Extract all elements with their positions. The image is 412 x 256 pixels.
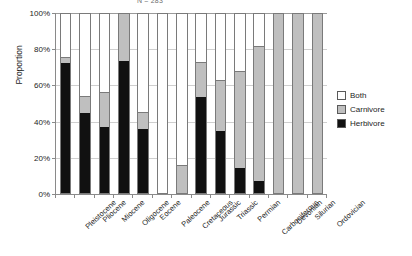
bar-segment-carnivore [235, 71, 245, 168]
bar-segment-carnivore [274, 14, 284, 193]
bar-slot [308, 13, 327, 194]
legend-item[interactable]: Herbivore [337, 117, 385, 129]
y-axis-title: Proportion [14, 10, 24, 120]
bar-segment-herbivore [254, 181, 264, 193]
bar-slot [250, 13, 269, 194]
bar-slot [75, 13, 94, 194]
bar-slot [153, 13, 172, 194]
bar-slot [269, 13, 288, 194]
bar-segment-carnivore [119, 14, 129, 61]
bar-group [56, 13, 327, 194]
stacked-bar[interactable] [99, 13, 111, 194]
bar-segment-carnivore [177, 165, 187, 193]
bar-segment-herbivore [196, 97, 206, 193]
stacked-bar[interactable] [195, 13, 207, 194]
legend-swatch-carnivore-icon [337, 105, 346, 114]
legend-swatch-both-icon [337, 91, 346, 100]
plot-area: 0%20%40%60%80%100% [55, 13, 327, 195]
y-axis-tick-label: 80% [34, 45, 50, 54]
bar-segment-herbivore [119, 61, 129, 193]
legend-label: Carnivore [350, 105, 385, 114]
chart-title: N = 283 [0, 0, 300, 4]
bar-segment-both [100, 14, 110, 92]
bar-slot [211, 13, 230, 194]
chart-legend: BothCarnivoreHerbivore [337, 89, 385, 131]
stacked-bar[interactable] [253, 13, 265, 194]
legend-item[interactable]: Carnivore [337, 103, 385, 115]
bar-segment-herbivore [100, 127, 110, 193]
bar-segment-carnivore [254, 46, 264, 181]
bar-segment-herbivore [138, 129, 148, 193]
stacked-bar[interactable] [215, 13, 227, 194]
y-axis-tick-label: 0% [38, 190, 50, 199]
bar-segment-carnivore [293, 14, 303, 193]
bar-slot [114, 13, 133, 194]
stacked-bar[interactable] [292, 13, 304, 194]
stacked-bar[interactable] [79, 13, 91, 194]
bar-segment-both [158, 14, 168, 193]
bar-segment-carnivore [80, 96, 90, 113]
bar-segment-herbivore [80, 113, 90, 193]
y-axis-tick-label: 20% [34, 153, 50, 162]
bar-segment-carnivore [196, 62, 206, 97]
bar-segment-both [216, 14, 226, 80]
bar-segment-both [235, 14, 245, 71]
legend-swatch-herbivore-icon [337, 119, 346, 128]
legend-label: Herbivore [350, 119, 385, 128]
bar-slot [288, 13, 307, 194]
bar-slot [230, 13, 249, 194]
bar-segment-both [196, 14, 206, 62]
bar-segment-carnivore [313, 14, 323, 193]
bar-segment-herbivore [235, 168, 245, 193]
x-axis-tick-label: Permian [255, 198, 282, 224]
legend-item[interactable]: Both [337, 89, 385, 101]
stacked-bar[interactable] [234, 13, 246, 194]
bar-slot [133, 13, 152, 194]
y-axis-tick-label: 40% [34, 117, 50, 126]
stacked-bar[interactable] [118, 13, 130, 194]
bar-segment-herbivore [216, 131, 226, 193]
chart-container: N = 283 Proportion 0%20%40%60%80%100% Pl… [0, 0, 412, 256]
stacked-bar[interactable] [157, 13, 169, 194]
bar-segment-both [61, 14, 71, 57]
stacked-bar[interactable] [273, 13, 285, 194]
bar-segment-carnivore [138, 112, 148, 129]
x-axis-tick-label: Ordovician [335, 198, 367, 229]
x-axis-labels: PleistocenePlioceneMioceneOligoceneEocen… [55, 198, 326, 256]
stacked-bar[interactable] [60, 13, 72, 194]
y-axis-tick-label: 100% [30, 9, 50, 18]
bar-slot [56, 13, 75, 194]
bar-slot [172, 13, 191, 194]
stacked-bar[interactable] [137, 13, 149, 194]
bar-segment-carnivore [100, 92, 110, 127]
legend-label: Both [350, 91, 366, 100]
bar-slot [95, 13, 114, 194]
bar-segment-both [80, 14, 90, 96]
x-axis-tick [326, 194, 327, 198]
y-axis-tick-label: 60% [34, 81, 50, 90]
stacked-bar[interactable] [176, 13, 188, 194]
bar-segment-both [254, 14, 264, 46]
bar-segment-both [138, 14, 148, 112]
bar-segment-carnivore [216, 80, 226, 131]
bar-slot [192, 13, 211, 194]
bar-segment-herbivore [61, 63, 71, 193]
stacked-bar[interactable] [312, 13, 324, 194]
bar-segment-both [177, 14, 187, 165]
